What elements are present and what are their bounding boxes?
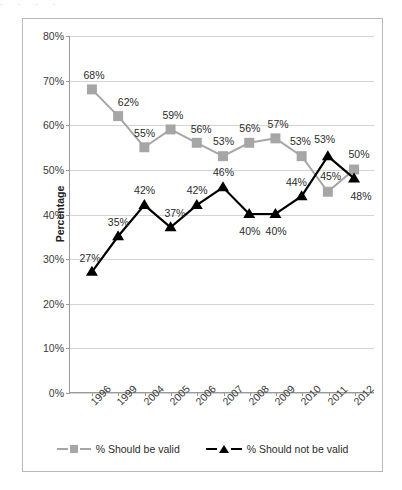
- data-label: 56%: [191, 123, 212, 135]
- clipped-header-text: · · · ·: [0, 0, 402, 9]
- data-label: 46%: [213, 166, 234, 178]
- data-label: 42%: [134, 184, 155, 196]
- data-point-marker: [297, 151, 307, 161]
- data-label: 68%: [83, 69, 104, 81]
- y-tick-label: 80%: [43, 30, 64, 42]
- data-point-marker: [218, 151, 228, 161]
- y-tick-label: 70%: [43, 75, 64, 87]
- legend-triangle-marker-icon: [219, 445, 229, 453]
- y-tick-label: 60%: [43, 119, 64, 131]
- y-tick-label: 0%: [49, 387, 64, 399]
- legend-line-left: [206, 448, 217, 450]
- data-label: 53%: [290, 135, 311, 147]
- series-layer: [70, 36, 374, 392]
- data-point-marker: [138, 199, 150, 209]
- y-tick-label: 30%: [43, 253, 64, 265]
- legend-item[interactable]: % Should be valid: [57, 443, 180, 455]
- data-label: 53%: [314, 133, 335, 145]
- legend-label: % Should be valid: [96, 443, 180, 455]
- data-label: 42%: [187, 184, 208, 196]
- data-label: 59%: [162, 109, 183, 121]
- legend-square-marker-icon: [70, 445, 78, 453]
- plot-area: Percentage 0%10%20%30%40%50%60%70%80% 19…: [69, 36, 374, 393]
- data-label: 50%: [348, 148, 369, 160]
- data-label: 40%: [266, 225, 287, 237]
- data-label: 62%: [118, 96, 139, 108]
- data-label: 53%: [213, 135, 234, 147]
- data-label: 44%: [286, 176, 307, 188]
- data-label: 57%: [268, 118, 289, 130]
- y-tick-label: 10%: [43, 342, 64, 354]
- data-label: 40%: [239, 225, 260, 237]
- data-point-marker: [87, 84, 97, 94]
- legend-line-right: [80, 448, 91, 450]
- chart-legend: % Should be valid% Should not be valid: [23, 443, 382, 455]
- y-tick-mark: [66, 393, 70, 394]
- data-label: 37%: [164, 207, 185, 219]
- data-point-marker: [191, 199, 203, 209]
- data-point-marker: [113, 111, 123, 121]
- data-point-marker: [322, 150, 334, 160]
- data-label: 45%: [320, 170, 341, 182]
- data-label: 55%: [134, 127, 155, 139]
- data-label: 56%: [239, 122, 260, 134]
- y-tick-label: 20%: [43, 298, 64, 310]
- legend-item[interactable]: % Should not be valid: [206, 443, 349, 455]
- data-label: 35%: [108, 216, 129, 228]
- data-point-marker: [270, 133, 280, 143]
- data-point-marker: [139, 142, 149, 152]
- data-point-marker: [323, 187, 333, 197]
- data-point-marker: [244, 138, 254, 148]
- data-label: 27%: [79, 252, 100, 264]
- y-tick-label: 40%: [43, 209, 64, 221]
- data-label: 48%: [350, 190, 371, 202]
- y-tick-label: 50%: [43, 164, 64, 176]
- legend-label: % Should not be valid: [247, 443, 349, 455]
- legend-line-left: [57, 448, 68, 450]
- data-point-marker: [192, 138, 202, 148]
- legend-line-right: [231, 448, 242, 450]
- chart-frame: Percentage 0%10%20%30%40%50%60%70%80% 19…: [22, 18, 383, 472]
- data-point-marker: [217, 181, 229, 191]
- data-point-marker: [166, 124, 176, 134]
